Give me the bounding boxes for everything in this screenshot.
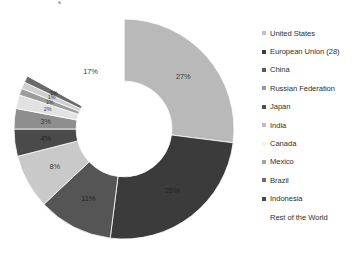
pie-slice[interactable]	[124, 19, 234, 143]
legend-item-label: Brazil	[270, 176, 289, 185]
slice-data-label: 3%	[40, 117, 51, 126]
legend-item-label: Japan	[270, 102, 290, 111]
donut-svg: 27%25%11%8%4%3%2%1%1%1%17%	[0, 0, 252, 259]
legend-marker-icon	[262, 123, 266, 127]
slice-data-label: 1%	[50, 90, 58, 96]
legend-marker-icon	[262, 197, 266, 201]
legend-item[interactable]: Mexico	[262, 153, 356, 171]
slice-data-label: 8%	[50, 162, 61, 171]
legend-item-label: Mexico	[270, 157, 294, 166]
legend-item-label: India	[270, 121, 286, 130]
legend-marker-icon	[262, 215, 266, 219]
legend-marker-icon	[262, 68, 266, 72]
legend-item-label: Canada	[270, 139, 296, 148]
chart-legend: United StatesEuropean Union (28)ChinaRus…	[262, 24, 356, 226]
legend-item[interactable]: Japan	[262, 98, 356, 116]
legend-marker-icon	[262, 105, 266, 109]
legend-item-label: China	[270, 65, 290, 74]
donut-plot-area: 27%25%11%8%4%3%2%1%1%1%17%	[0, 0, 252, 259]
legend-item[interactable]: China	[262, 61, 356, 79]
legend-item-label: Indonesia	[270, 194, 302, 203]
legend-item[interactable]: United States	[262, 24, 356, 42]
legend-marker-icon	[262, 178, 266, 182]
slice-data-label: 27%	[176, 72, 191, 81]
legend-item-label: United States	[270, 29, 315, 38]
legend-item-label: European Union (28)	[270, 47, 340, 56]
legend-item[interactable]: Brazil	[262, 171, 356, 189]
slice-data-label: 2%	[44, 106, 52, 112]
legend-item[interactable]: Canada	[262, 134, 356, 152]
legend-marker-icon	[262, 142, 266, 146]
slices-group	[14, 19, 234, 239]
legend-item[interactable]: European Union (28)	[262, 42, 356, 60]
legend-marker-icon	[262, 160, 266, 164]
legend-marker-icon	[262, 50, 266, 54]
slice-data-label: 11%	[81, 194, 95, 203]
donut-chart-figure: 27%25%11%8%4%3%2%1%1%1%17% United States…	[0, 0, 356, 259]
legend-marker-icon	[262, 31, 266, 35]
legend-item[interactable]: Indonesia	[262, 190, 356, 208]
slice-data-label: 17%	[83, 67, 98, 76]
legend-marker-icon	[262, 86, 266, 90]
slice-data-label: 25%	[165, 186, 180, 195]
slice-data-label: 4%	[40, 134, 51, 143]
legend-item-label: Russian Federation	[270, 84, 335, 93]
legend-item[interactable]: India	[262, 116, 356, 134]
legend-item[interactable]: Russian Federation	[262, 79, 356, 97]
legend-item[interactable]: Rest of the World	[262, 208, 356, 226]
legend-item-label: Rest of the World	[270, 213, 328, 222]
